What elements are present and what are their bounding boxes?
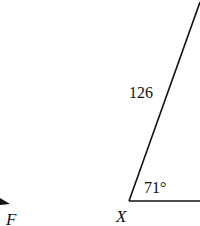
- side-x-top: [129, 2, 200, 201]
- arrowhead-f: [0, 198, 10, 205]
- triangle-diagram: 126 71° X F: [0, 0, 200, 226]
- angle-label: 71°: [144, 179, 166, 196]
- side-length-label: 126: [129, 84, 153, 101]
- vertex-f-label: F: [5, 210, 17, 226]
- vertex-x-label: X: [115, 207, 127, 226]
